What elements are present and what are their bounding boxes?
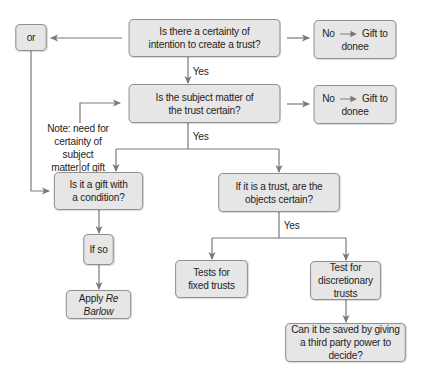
certainty-of-intention-node: Is there a certainty of intention to cre… xyxy=(129,19,281,57)
no-gift-to-donee-node-1: No Gift to donee xyxy=(314,20,397,59)
test-discretionary-trusts-node: Test for discretionary trusts xyxy=(310,261,381,300)
if-so-label: If so xyxy=(89,243,107,256)
node-text-line: Is the subject matter of xyxy=(156,91,254,104)
donee-label: donee xyxy=(322,40,388,53)
subject-matter-certain-node: Is the subject matter of the trust certa… xyxy=(129,84,281,123)
gift-with-condition-node: Is it a gift with a condition? xyxy=(54,172,143,210)
tests-fixed-trusts-node: Tests for fixed trusts xyxy=(175,260,248,298)
no-label: No xyxy=(322,92,335,104)
node-text-line: objects certain? xyxy=(235,193,322,206)
yes-label-3: Yes xyxy=(284,219,300,232)
node-text-line: Is there a certainty of xyxy=(149,25,261,38)
node-text-line: Is it a gift with xyxy=(69,178,127,191)
node-text-line: Can it be saved by giving xyxy=(286,323,405,336)
node-text-line: a condition? xyxy=(69,191,127,204)
node-text-line: intention to create a trust? xyxy=(149,38,261,51)
objects-certain-node: If it is a trust, are the objects certai… xyxy=(218,173,339,212)
gift-to-label: Gift to xyxy=(362,27,388,39)
node-text-line: Tests for xyxy=(188,266,235,279)
if-so-node: If so xyxy=(83,234,113,265)
yes-label-1: Yes xyxy=(193,65,209,78)
node-text-line: a third party power to decide? xyxy=(286,336,405,362)
arrow-right-icon xyxy=(339,95,357,103)
node-text-line: fixed trusts xyxy=(188,279,235,292)
gift-to-label: Gift to xyxy=(362,92,388,104)
apply-re-barlow-node: Apply Re Barlow xyxy=(66,290,131,319)
note-line: Note: need for xyxy=(39,122,116,135)
no-gift-to-donee-node-2: No Gift to donee xyxy=(314,85,397,124)
donee-label: donee xyxy=(322,105,388,118)
apply-label: Apply xyxy=(79,292,103,304)
note-line: certainty of subject xyxy=(39,135,116,161)
node-text-line: discretionary trusts xyxy=(311,274,380,300)
no-label: No xyxy=(322,27,335,39)
yes-label-2: Yes xyxy=(193,130,209,143)
note-certainty-subject-matter: Note: need for certainty of subject matt… xyxy=(39,122,116,174)
or-label: or xyxy=(27,31,36,44)
node-text-line: the trust certain? xyxy=(156,104,254,117)
third-party-power-node: Can it be saved by giving a third party … xyxy=(285,323,406,362)
arrow-right-icon xyxy=(339,30,357,38)
node-text-line: If it is a trust, are the xyxy=(235,180,322,193)
node-text-line: Test for xyxy=(311,261,380,274)
or-node: or xyxy=(15,24,46,51)
